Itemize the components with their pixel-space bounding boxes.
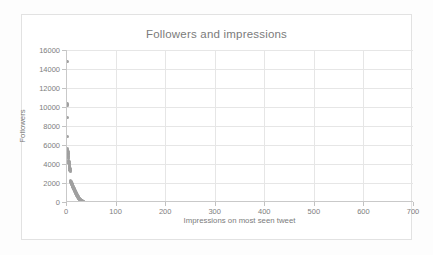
- x-axis-tick: [363, 202, 364, 206]
- gridline-horizontal: [66, 88, 413, 89]
- y-axis-tick-label: 12000: [39, 84, 60, 93]
- y-axis-tick: [62, 145, 66, 146]
- gridline-vertical: [215, 50, 216, 202]
- y-axis-tick-label: 10000: [39, 103, 60, 112]
- gridline-vertical: [314, 50, 315, 202]
- x-axis-line: [66, 201, 413, 202]
- y-axis-tick-label: 14000: [39, 65, 60, 74]
- y-axis-tick: [62, 88, 66, 89]
- y-axis-tick: [62, 183, 66, 184]
- x-axis-tick-label: 600: [357, 207, 370, 216]
- x-axis-tick-label: 500: [308, 207, 321, 216]
- x-axis-tick: [314, 202, 315, 206]
- x-axis-tick: [215, 202, 216, 206]
- gridline-horizontal: [66, 107, 413, 108]
- y-axis-tick: [62, 126, 66, 127]
- data-point: [69, 170, 72, 173]
- y-axis-tick: [62, 164, 66, 165]
- gridline-horizontal: [66, 183, 413, 184]
- x-axis-label: Impressions on most seen tweet: [66, 216, 413, 225]
- gridline-vertical: [116, 50, 117, 202]
- gridline-vertical: [165, 50, 166, 202]
- x-axis-tick-label: 100: [109, 207, 122, 216]
- y-axis-tick-label: 8000: [43, 122, 60, 131]
- x-axis-tick: [264, 202, 265, 206]
- x-axis-tick: [165, 202, 166, 206]
- gridline-horizontal: [66, 126, 413, 127]
- gridline-horizontal: [66, 145, 413, 146]
- y-axis-label: Followers: [18, 109, 27, 142]
- x-axis-tick-label: 700: [407, 207, 420, 216]
- chart-figure: Followers and impressions 02000400060008…: [0, 0, 433, 255]
- y-axis-tick-label: 0: [56, 198, 60, 207]
- y-axis-tick-label: 6000: [43, 141, 60, 150]
- x-axis-tick: [116, 202, 117, 206]
- x-axis-tick-label: 0: [64, 207, 68, 216]
- y-axis-line: [66, 50, 67, 202]
- y-axis-tick-label: 2000: [43, 179, 60, 188]
- y-axis-tick: [62, 69, 66, 70]
- plot-area: 0200040006000800010000120001400016000010…: [66, 50, 413, 202]
- gridline-vertical: [264, 50, 265, 202]
- y-axis-tick-label: 4000: [43, 160, 60, 169]
- y-axis-tick-label: 16000: [39, 46, 60, 55]
- gridline-horizontal: [66, 164, 413, 165]
- x-axis-tick-label: 200: [159, 207, 172, 216]
- plot-inner: [66, 50, 413, 202]
- gridline-horizontal: [66, 50, 413, 51]
- x-axis-tick-label: 400: [258, 207, 271, 216]
- y-axis-tick: [62, 50, 66, 51]
- y-axis-tick: [62, 107, 66, 108]
- x-axis-tick: [66, 202, 67, 206]
- gridline-vertical: [363, 50, 364, 202]
- x-axis-tick: [413, 202, 414, 206]
- chart-title: Followers and impressions: [21, 28, 412, 40]
- gridline-horizontal: [66, 69, 413, 70]
- x-axis-tick-label: 300: [208, 207, 221, 216]
